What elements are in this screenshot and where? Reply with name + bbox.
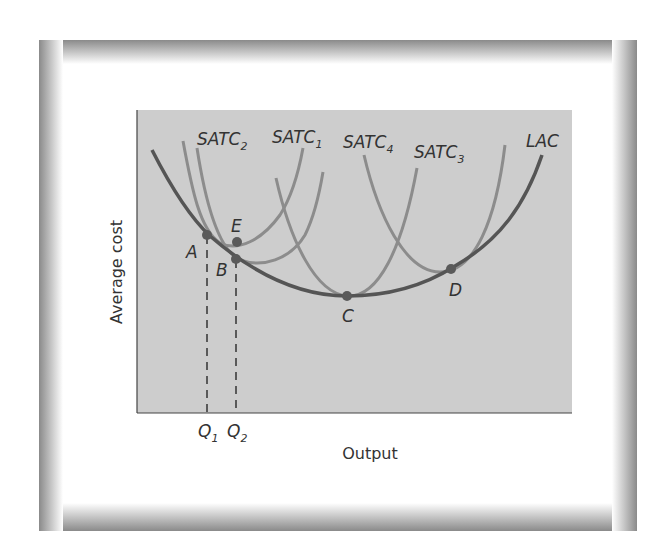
plot-area [137,110,572,413]
x-axis-title: Output [342,444,398,463]
point-d-marker [446,264,456,274]
lac-label: LAC [526,131,559,151]
point-c-label: C [342,306,354,326]
cost-curves-chart: SATC2 SATC1 SATC4 SATC3 LAC A E B C D Q1… [0,0,667,560]
y-axis-title: Average cost [107,220,126,324]
point-e-marker [232,237,242,247]
point-a-marker [202,230,212,240]
q1-tick-label: Q1 [198,421,218,445]
point-a-label: A [185,242,198,262]
point-b-label: B [216,260,228,280]
point-e-label: E [231,216,242,236]
point-b-marker [231,254,241,264]
point-c-marker [342,291,352,301]
point-d-label: D [449,280,462,300]
q2-tick-label: Q2 [227,421,247,445]
